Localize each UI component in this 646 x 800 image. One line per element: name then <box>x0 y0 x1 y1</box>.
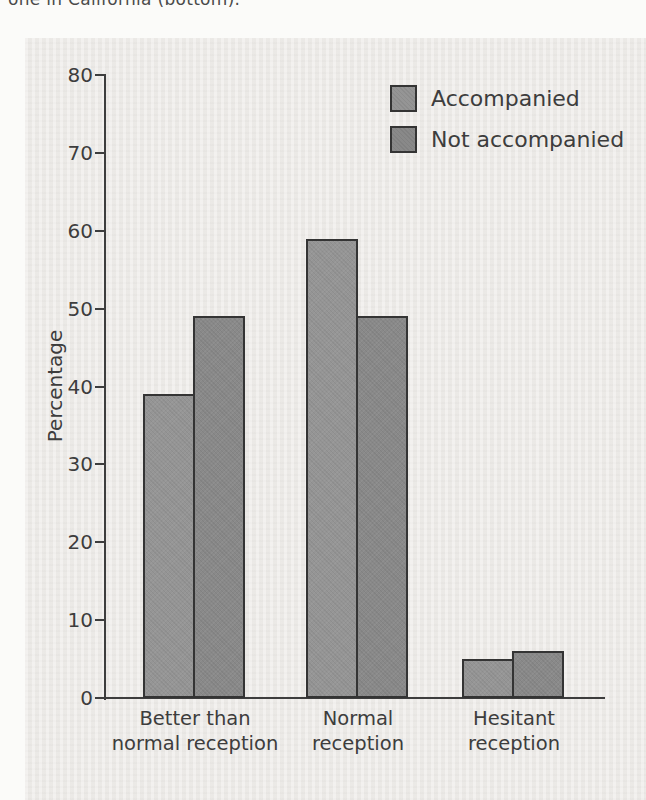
y-tick-0 <box>95 697 104 699</box>
legend-label-not-accompanied: Not accompanied <box>431 127 624 152</box>
bar-not-accompanied-2 <box>512 651 564 698</box>
legend: Accompanied Not accompanied <box>390 85 624 153</box>
x-category-label-2: Hesitantreception <box>414 706 614 756</box>
y-tick-label-10: 10 <box>43 608 93 632</box>
legend-item-not-accompanied: Not accompanied <box>390 126 624 153</box>
y-tick-30 <box>95 463 104 465</box>
y-tick-50 <box>95 308 104 310</box>
bar-accompanied-0 <box>143 394 195 698</box>
legend-item-accompanied: Accompanied <box>390 85 624 112</box>
y-tick-80 <box>95 74 104 76</box>
y-tick-10 <box>95 619 104 621</box>
legend-label-accompanied: Accompanied <box>431 86 580 111</box>
y-tick-70 <box>95 152 104 154</box>
bar-accompanied-1 <box>306 239 358 698</box>
y-tick-60 <box>95 230 104 232</box>
bar-accompanied-2 <box>462 659 514 698</box>
y-tick-20 <box>95 541 104 543</box>
y-tick-label-50: 50 <box>43 297 93 321</box>
legend-swatch-accompanied <box>390 85 417 112</box>
y-tick-label-60: 60 <box>43 219 93 243</box>
x-category-label-line: Hesitant <box>414 706 614 731</box>
bar-not-accompanied-1 <box>356 316 408 698</box>
y-tick-label-80: 80 <box>43 63 93 87</box>
y-tick-label-20: 20 <box>43 530 93 554</box>
y-tick-label-40: 40 <box>43 375 93 399</box>
y-tick-40 <box>95 386 104 388</box>
y-tick-label-0: 0 <box>43 686 93 710</box>
bar-not-accompanied-0 <box>193 316 245 698</box>
y-axis-line <box>104 74 106 700</box>
x-category-label-line: reception <box>414 731 614 756</box>
y-tick-label-30: 30 <box>43 452 93 476</box>
bar-chart: Percentage Accompanied Not accompanied 0… <box>0 0 646 800</box>
legend-swatch-not-accompanied <box>390 126 417 153</box>
y-tick-label-70: 70 <box>43 141 93 165</box>
